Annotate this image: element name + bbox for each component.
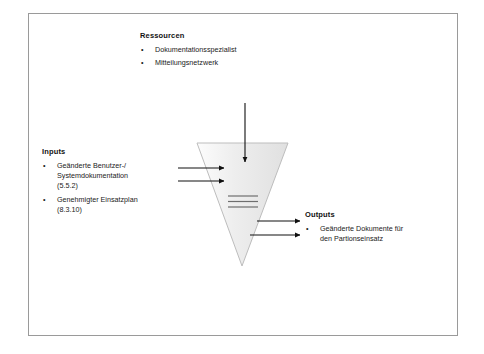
list-item: • Geänderte Benutzer-/ Systemdokumentati… xyxy=(42,161,182,192)
inputs-list: • Geänderte Benutzer-/ Systemdokumentati… xyxy=(42,161,182,215)
list-item-label: Geänderte Benutzer-/ Systemdokumentation… xyxy=(57,161,182,192)
resources-block: Ressourcen • Dokumentationsspezialist • … xyxy=(140,31,310,68)
list-item-label: Mitteilungsnetzwerk xyxy=(155,58,310,68)
bullet-icon: • xyxy=(141,45,144,55)
list-item: • Dokumentationsspezialist xyxy=(140,45,310,55)
list-item: • Mitteilungsnetzwerk xyxy=(140,58,310,68)
resources-list: • Dokumentationsspezialist • Mitteilungs… xyxy=(140,45,310,68)
list-item: • Genehmigter Einsatzplan (8.3.10) xyxy=(42,195,182,215)
outputs-list: • Geänderte Dokumente für den Partionsei… xyxy=(305,224,440,244)
diagram-canvas: Ressourcen • Dokumentationsspezialist • … xyxy=(0,0,484,354)
resources-heading: Ressourcen xyxy=(140,31,310,41)
bullet-icon: • xyxy=(141,58,144,68)
bullet-icon: • xyxy=(43,195,46,205)
list-item-label: Geänderte Dokumente für den Partionseins… xyxy=(320,224,440,244)
outputs-heading: Outputs xyxy=(305,210,440,220)
outputs-block: Outputs • Geänderte Dokumente für den Pa… xyxy=(305,210,440,244)
inputs-block: Inputs • Geänderte Benutzer-/ Systemdoku… xyxy=(42,147,182,215)
list-item-label: Dokumentationsspezialist xyxy=(155,45,310,55)
bullet-icon: • xyxy=(306,224,309,234)
list-item: • Geänderte Dokumente für den Partionsei… xyxy=(305,224,440,244)
bullet-icon: • xyxy=(43,161,46,171)
list-item-label: Genehmigter Einsatzplan (8.3.10) xyxy=(57,195,182,215)
inputs-heading: Inputs xyxy=(42,147,182,157)
